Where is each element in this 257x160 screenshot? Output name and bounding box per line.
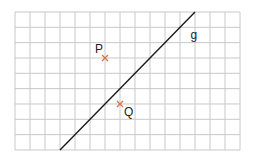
point-q-label: Q xyxy=(124,105,133,119)
line-g xyxy=(60,12,195,150)
line-g-label: g xyxy=(191,28,198,42)
point-p-label: P xyxy=(95,42,103,56)
grid-diagram: g P Q xyxy=(0,0,257,160)
